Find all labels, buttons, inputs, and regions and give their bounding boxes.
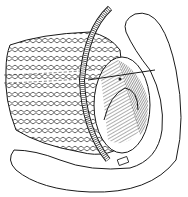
clamp bbox=[117, 156, 128, 165]
illustration-canvas bbox=[0, 0, 188, 197]
surgical-illustration bbox=[0, 0, 188, 197]
